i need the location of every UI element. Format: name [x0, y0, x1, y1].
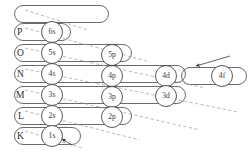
- diagram-canvas: [0, 0, 250, 160]
- orbital-label-6s: 6s: [49, 28, 56, 36]
- orbital-label-4f: 4f: [219, 72, 225, 80]
- orbital-label-5s: 5s: [49, 49, 56, 57]
- shell-label-M: M: [16, 91, 24, 101]
- orbital-label-5p: 5p: [108, 51, 116, 59]
- shell-label-N: N: [17, 70, 24, 80]
- shell-label-P: P: [17, 28, 22, 38]
- orbital-label-4s: 4s: [49, 70, 56, 78]
- shell-label-K: K: [17, 132, 24, 142]
- orbital-label-1s: 1s: [49, 132, 56, 140]
- arrow-4f: [196, 56, 230, 66]
- orbital-label-3d: 3d: [162, 92, 170, 100]
- orbital-label-3p: 3p: [108, 93, 116, 101]
- orbital-label-2p: 2p: [108, 113, 116, 121]
- track-top: [15, 6, 109, 23]
- shell-label-L: L: [18, 112, 24, 122]
- arrow-group: [62, 56, 230, 145]
- aufbau-diagram: PONMLK 6s5s4s3s2s1s5p4p3p2p4d3d4f: [0, 0, 250, 160]
- shell-label-O: O: [17, 49, 24, 59]
- orbital-label-4p: 4p: [108, 72, 116, 80]
- arrow-1s: [62, 139, 72, 145]
- orbital-label-2s: 2s: [49, 112, 56, 120]
- orbital-label-3s: 3s: [49, 91, 56, 99]
- orbital-label-4d: 4d: [162, 72, 170, 80]
